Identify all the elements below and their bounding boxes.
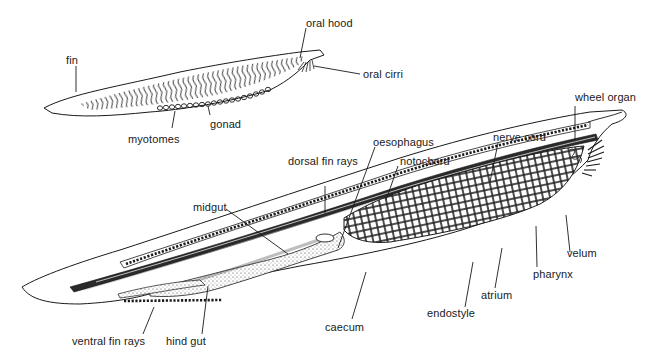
- label-hind-gut: hind gut: [166, 335, 206, 347]
- label-pharynx: pharynx: [533, 268, 573, 280]
- label-notochord: notochord: [400, 155, 450, 167]
- label-oral-hood: oral hood: [306, 17, 353, 29]
- label-oesophagus: oesophagus: [373, 136, 434, 148]
- label-myotomes: myotomes: [128, 133, 180, 145]
- label-nerve-cord: nerve cord: [493, 131, 546, 143]
- label-midgut: midgut: [193, 201, 227, 213]
- label-wheel-organ: wheel organ: [575, 91, 636, 103]
- label-gonad: gonad: [210, 118, 241, 130]
- label-ventral-fin-rays: ventral fin rays: [72, 335, 145, 347]
- label-caecum: caecum: [325, 321, 364, 333]
- label-fin: fin: [66, 54, 78, 66]
- label-dorsal-fin-rays: dorsal fin rays: [288, 155, 358, 167]
- label-oral-cirri: oral cirri: [363, 68, 403, 80]
- label-atrium: atrium: [481, 289, 512, 301]
- label-velum: velum: [567, 247, 597, 259]
- amphioxus-diagram: fin oral hood oral cirri myotomes gonad …: [0, 0, 654, 362]
- label-endostyle: endostyle: [427, 307, 475, 319]
- small-amphioxus-illustration: [0, 0, 654, 362]
